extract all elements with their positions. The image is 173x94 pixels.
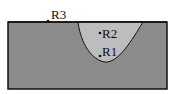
point-r3-marker [47,20,50,23]
point-r1-label: R1 [102,44,117,59]
point-r3-label: R3 [51,7,66,22]
point-r2-label: R2 [102,26,117,41]
diagram-canvas: R1 R2 R3 [0,0,173,94]
point-r1-marker [99,55,102,58]
point-r2-marker [99,32,102,35]
